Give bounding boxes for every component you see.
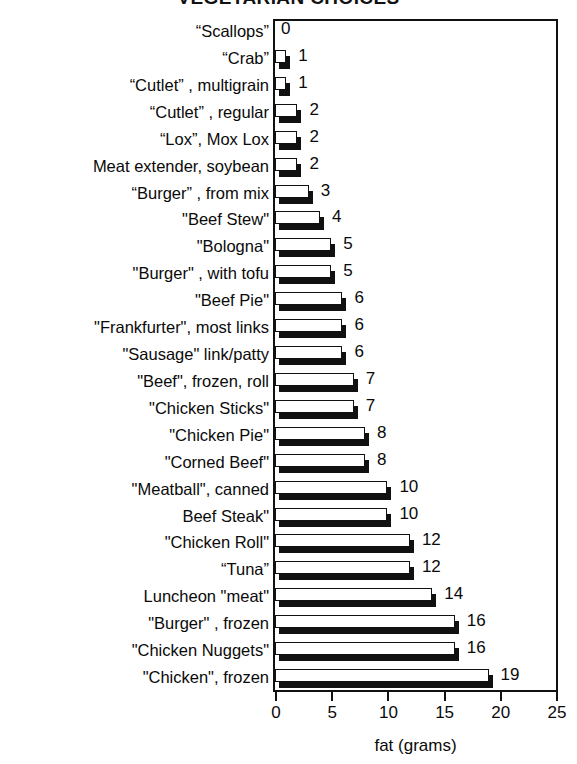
bar-face [275, 615, 455, 628]
bar [275, 50, 292, 70]
bar-row: “Tuna”12 [0, 557, 577, 583]
x-axis-tick [500, 692, 502, 701]
bar-face [275, 131, 297, 144]
bar-row: "Corned Beef"8 [0, 450, 577, 476]
bar-row: "Beef Stew"4 [0, 207, 577, 233]
bar [275, 400, 360, 420]
bar-row: "Chicken", frozen19 [0, 665, 577, 691]
category-label: "Burger" , frozen [148, 612, 269, 634]
bar-face [275, 211, 320, 224]
bar-face [275, 373, 354, 386]
bar-face [275, 561, 410, 574]
bar [275, 454, 371, 474]
bar-face [275, 454, 365, 467]
bar-value-label: 1 [298, 72, 307, 94]
bar-face [275, 77, 286, 90]
category-label: “Tuna” [221, 558, 269, 580]
bar-value-label: 2 [309, 99, 318, 121]
bar-value-label: 14 [444, 583, 463, 605]
x-axis-tick-label: 10 [379, 703, 398, 723]
bar [275, 508, 393, 528]
category-label: "Beef Pie" [195, 289, 269, 311]
category-label: “Cutlet” , multigrain [130, 74, 269, 96]
bar-value-label: 12 [422, 529, 441, 551]
x-axis-tick-label: 5 [327, 703, 336, 723]
bar-value-label: 5 [343, 260, 352, 282]
bar [275, 669, 495, 689]
x-axis-tick [387, 692, 389, 701]
bar-row: "Burger" , with tofu5 [0, 261, 577, 287]
category-label: "Corned Beef" [165, 451, 269, 473]
bar [275, 158, 303, 178]
x-axis-tick-label: 15 [435, 703, 454, 723]
bar-row: "Bologna"5 [0, 234, 577, 260]
bar-face [275, 185, 309, 198]
bar-row: "Frankfurter", most links6 [0, 315, 577, 341]
bar-face [275, 292, 342, 305]
bar-value-label: 8 [377, 449, 386, 471]
category-label: "Chicken Nuggets" [132, 639, 269, 661]
category-label: "Sausage" link/patty [122, 343, 269, 365]
bar [275, 292, 348, 312]
bar-value-label: 6 [354, 314, 363, 336]
chart-title: VEGETARIAN CHOICES [0, 0, 577, 9]
bar [275, 77, 292, 97]
bar-value-label: 10 [399, 503, 418, 525]
bar-value-label: 1 [298, 45, 307, 67]
category-label: "Frankfurter", most links [94, 316, 269, 338]
bar-value-label: 19 [501, 664, 520, 686]
bar-face [275, 534, 410, 547]
bar-face [275, 319, 342, 332]
bar-face [275, 669, 489, 682]
bar-value-label: 6 [354, 341, 363, 363]
category-label: "Chicken Pie" [169, 424, 269, 446]
bar-row: “Cutlet” , regular2 [0, 100, 577, 126]
bar-value-label: 2 [309, 126, 318, 148]
bar-row: Luncheon "meat"14 [0, 584, 577, 610]
bar-face [275, 158, 297, 171]
bar-row: “Burger” , from mix3 [0, 181, 577, 207]
category-label: "Beef", frozen, roll [137, 370, 269, 392]
bar [275, 481, 393, 501]
bar [275, 185, 315, 205]
category-label: "Chicken", frozen [143, 666, 269, 688]
bar-value-label: 5 [343, 233, 352, 255]
bar-value-label: 7 [366, 368, 375, 390]
bar-face [275, 427, 365, 440]
x-axis-tick-label: 20 [491, 703, 510, 723]
bar-row: Beef Steak"10 [0, 504, 577, 530]
bar [275, 211, 326, 231]
bar-value-label: 6 [354, 287, 363, 309]
category-label: "Chicken Roll" [165, 531, 269, 553]
bar-face [275, 104, 297, 117]
bar-row: "Chicken Pie"8 [0, 423, 577, 449]
bar [275, 588, 438, 608]
bar-value-label: 4 [332, 206, 341, 228]
category-label: Beef Steak" [182, 505, 269, 527]
category-label: "Beef Stew" [182, 208, 269, 230]
bar [275, 615, 461, 635]
x-axis-title: fat (grams) [273, 736, 558, 756]
category-label: “Crab” [222, 47, 269, 69]
bar-row: "Chicken Sticks"7 [0, 396, 577, 422]
bar [275, 238, 337, 258]
bar [275, 346, 348, 366]
x-axis-tick-label: 25 [548, 703, 567, 723]
bar-row: “Crab”1 [0, 46, 577, 72]
bar-row: “Lox”, Mox Lox2 [0, 127, 577, 153]
bar-face [275, 265, 331, 278]
x-axis-tick-label: 0 [271, 703, 280, 723]
category-label: “Lox”, Mox Lox [160, 128, 269, 150]
bar [275, 427, 371, 447]
bar-row: “Cutlet” , multigrain1 [0, 73, 577, 99]
category-label: "Burger" , with tofu [133, 262, 269, 284]
bar-face [275, 508, 387, 521]
bar-row: Meat extender, soybean2 [0, 154, 577, 180]
bar-row: "Sausage" link/patty6 [0, 342, 577, 368]
bar-face [275, 588, 432, 601]
bar-row: “Scallops”0 [0, 19, 577, 45]
category-label: “Cutlet” , regular [150, 101, 269, 123]
bar [275, 561, 416, 581]
bar-value-label: 7 [366, 395, 375, 417]
category-label: "Bologna" [197, 235, 269, 257]
